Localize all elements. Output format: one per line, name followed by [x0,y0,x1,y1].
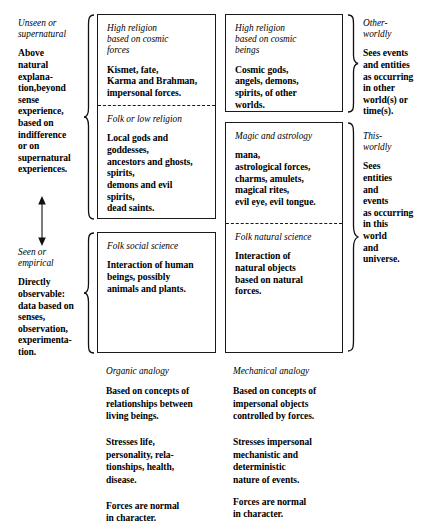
cell-heading: Folk natural science [235,232,338,243]
cell-body: mana, astrological forces, charms, amule… [235,149,338,208]
cell-body: Kismet, fate, Karma and Brahman, imperso… [107,64,211,99]
cell-box-high-religion-beings: High religion based on cosmic beings Cos… [225,14,343,112]
unseen-supernatural-label: Unseen or supernatural [18,18,90,40]
right-label-title: Other- worldly [363,18,425,40]
right-label-body: Sees events and entities as occurring in… [363,47,425,117]
cell-box-magic-and-natural-science: Magic and astrology mana, astrological f… [225,122,343,353]
double-headed-vertical-arrow [30,196,54,246]
cell-body: Cosmic gods, angels, demons, spirits, of… [235,64,338,111]
cell-box-folk-social-science: Folk social science Interaction of human… [97,232,216,353]
bottom-column-organic-analogy: Organic analogy Based on concepts of rel… [106,366,231,525]
cell-body: Interaction of natural objects based on … [235,250,338,297]
cell-box-religion-left: High religion based on cosmic forces Kis… [97,14,216,219]
right-label-this-worldly: This- worldly Sees entities and events a… [363,131,425,265]
left-axis-column: Unseen or supernatural Above natural exp… [18,18,90,175]
cell-heading: Folk social science [107,241,211,252]
right-brace-other-worldly [347,14,359,113]
dashed-separator-left-box [98,105,215,106]
right-label-other-worldly: Other- worldly Sees events and entities … [363,18,425,117]
cell-high-religion-cosmic-beings: High religion based on cosmic beings Cos… [235,23,338,110]
cell-heading: High religion based on cosmic forces [107,23,211,57]
cell-heading: Folk or low religion [107,114,211,125]
bottom-paragraph-1: Based on concepts of impersonal objects … [233,385,363,422]
cell-heading: Magic and astrology [235,131,338,142]
bottom-column-label: Organic analogy [106,366,231,377]
right-label-body: Sees entities and events as occurring in… [363,160,425,264]
bottom-paragraph-2: Stresses impersonal mechanistic and dete… [233,436,363,486]
bottom-paragraph-1: Based on concepts of relationships betwe… [106,385,231,422]
right-label-title: This- worldly [363,131,425,153]
bottom-column-label: Mechanical analogy [233,366,363,377]
cell-heading: High religion based on cosmic beings [235,23,338,57]
left-brace-supernatural [83,14,95,220]
left-brace-empirical [83,232,95,354]
cell-folk-social-science: Folk social science Interaction of human… [107,241,211,294]
cell-body: Interaction of human beings, possibly an… [107,259,211,294]
unseen-supernatural-body: Above natural explana- tion,beyond sense… [18,47,90,175]
cell-body: Local gods and goddesses, ancestors and … [107,132,211,214]
right-brace-this-worldly [347,122,359,353]
bottom-paragraph-3: Forces are normal in character. [106,500,231,525]
bottom-column-mechanical-analogy: Mechanical analogy Based on concepts of … [233,366,363,521]
cell-magic-and-astrology: Magic and astrology mana, astrological f… [235,131,338,208]
bottom-paragraph-2: Stresses life, personality, rela- tionsh… [106,436,231,486]
cell-folk-natural-science: Folk natural science Interaction of natu… [235,232,338,297]
bottom-paragraph-3: Forces are normal in character. [233,496,363,521]
cell-folk-or-low-religion: Folk or low religion Local gods and godd… [107,114,211,214]
cell-high-religion-cosmic-forces: High religion based on cosmic forces Kis… [107,23,211,99]
dashed-separator-right-box [226,223,342,224]
